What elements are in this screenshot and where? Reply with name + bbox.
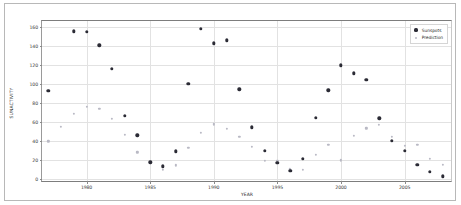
y-tick-mark (40, 103, 43, 104)
legend-label: Sunspots (422, 28, 442, 33)
gridline-horizontal (42, 46, 451, 47)
legend-item-prediction: Prediction (414, 35, 443, 40)
y-tick-label: 20 (32, 158, 38, 163)
data-point (365, 127, 367, 129)
data-point (238, 136, 240, 138)
y-tick-label: 60 (32, 120, 38, 125)
data-point (314, 116, 317, 119)
gridline-vertical (341, 21, 342, 181)
data-point (442, 164, 444, 166)
legend-marker-icon (415, 37, 417, 39)
x-tick-mark (277, 181, 278, 184)
y-tick-mark (40, 141, 43, 142)
data-point (225, 39, 228, 42)
data-point (187, 146, 189, 148)
data-point (60, 126, 62, 128)
y-tick-label: 80 (32, 100, 38, 105)
data-point (73, 113, 75, 115)
data-point (161, 165, 164, 168)
data-point (339, 64, 342, 67)
gridline-horizontal (42, 84, 451, 85)
x-tick-label: 1995 (272, 185, 283, 190)
y-tick-mark (40, 65, 43, 66)
y-tick-mark (40, 179, 43, 180)
data-point (162, 168, 164, 170)
gridline-horizontal (42, 65, 451, 66)
data-point (352, 72, 355, 75)
plot-area: 020406080100120140160 198019851990199520… (41, 20, 452, 182)
x-tick-label: 1980 (81, 185, 92, 190)
gridline-horizontal (42, 103, 451, 104)
data-point (148, 160, 151, 163)
data-point (416, 143, 418, 145)
x-tick-label: 1985 (145, 185, 156, 190)
data-point (212, 42, 215, 45)
legend-label: Prediction (422, 35, 443, 40)
x-tick-label: 1990 (208, 185, 219, 190)
data-point (47, 89, 50, 92)
x-axis-title: YEAR (241, 192, 253, 197)
y-tick-label: 40 (32, 139, 38, 144)
y-tick-label: 160 (30, 24, 38, 29)
data-point (199, 27, 202, 30)
data-point (263, 149, 266, 152)
y-tick-mark (40, 27, 43, 28)
gridline-vertical (277, 21, 278, 181)
y-tick-label: 0 (35, 177, 38, 182)
data-point (377, 117, 380, 120)
data-point (276, 161, 279, 164)
data-point (124, 134, 126, 136)
gridline-horizontal (42, 179, 451, 180)
data-point (238, 88, 241, 91)
x-tick-mark (150, 181, 151, 184)
data-point (123, 114, 126, 117)
data-point (264, 159, 266, 161)
x-tick-mark (405, 181, 406, 184)
data-point (365, 78, 368, 81)
x-tick-label: 2005 (399, 185, 410, 190)
data-point (225, 128, 227, 130)
data-point (353, 135, 355, 137)
data-point (251, 146, 253, 148)
legend-item-sunspots: Sunspots (414, 28, 443, 33)
x-tick-label: 2000 (335, 185, 346, 190)
data-point (403, 149, 406, 152)
data-point (111, 118, 113, 120)
data-point (378, 123, 380, 125)
chart-legend: SunspotsPrediction (410, 24, 448, 44)
gridline-vertical (214, 21, 215, 181)
y-axis-title: SUNACTIVITY (9, 88, 14, 119)
legend-marker-icon (414, 28, 417, 31)
data-point (416, 163, 419, 166)
data-point (85, 30, 88, 33)
data-point (98, 108, 100, 110)
y-tick-mark (40, 46, 43, 47)
data-point (428, 170, 431, 173)
data-point (174, 149, 177, 152)
x-tick-mark (341, 181, 342, 184)
y-tick-mark (40, 122, 43, 123)
gridline-vertical (405, 21, 406, 181)
gridline-horizontal (42, 27, 451, 28)
gridline-vertical (150, 21, 151, 181)
chart-figure: SUNACTIVITY YEAR 020406080100120140160 1… (4, 3, 456, 201)
y-tick-label: 140 (30, 43, 38, 48)
y-tick-mark (40, 84, 43, 85)
data-point (174, 164, 176, 166)
y-tick-mark (40, 160, 43, 161)
data-point (250, 125, 253, 128)
data-point (288, 169, 291, 172)
data-point (314, 154, 316, 156)
gridline-horizontal (42, 160, 451, 161)
data-point (136, 134, 139, 137)
data-point (200, 132, 202, 134)
gridline-vertical (87, 21, 88, 181)
data-point (327, 89, 330, 92)
x-tick-mark (87, 181, 88, 184)
data-point (72, 30, 75, 33)
data-point (110, 67, 113, 70)
data-point (302, 169, 304, 171)
data-point (136, 151, 138, 153)
y-tick-label: 100 (30, 81, 38, 86)
y-tick-label: 120 (30, 62, 38, 67)
